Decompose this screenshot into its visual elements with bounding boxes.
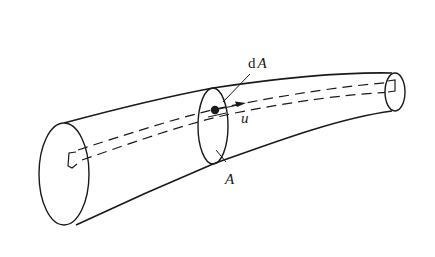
dA-leader-line [223, 74, 250, 102]
velocity-label: u [241, 111, 249, 126]
tube-bottom-outline [76, 111, 392, 225]
dA-label: dA [248, 56, 267, 71]
dA-label-prefix: d [248, 55, 256, 71]
middle-section [198, 88, 228, 164]
velocity-arrow-head [235, 102, 246, 108]
streamtube-figure: dA u A [0, 0, 435, 257]
area-label: A [225, 172, 234, 187]
streamtube-upper-dashed [78, 82, 394, 150]
elemental-area-dot [211, 106, 219, 114]
inlet-section [39, 123, 89, 225]
velocity-arrow-shaft [219, 105, 238, 109]
streamtube-svg [0, 0, 435, 257]
dA-label-symbol: A [258, 55, 267, 71]
